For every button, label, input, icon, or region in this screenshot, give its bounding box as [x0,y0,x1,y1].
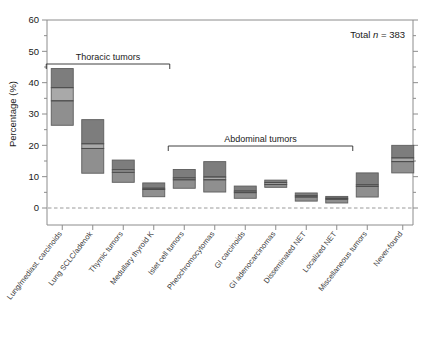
box-plot-item [356,173,378,197]
y-tick-label: 20 [28,140,39,151]
y-tick-label: 30 [28,108,39,119]
box-plot-chart: 0102030405060 Thoracic tumorsAbdominal t… [0,0,432,338]
box-plot-item [112,160,134,182]
y-tick-label: 0 [34,202,39,213]
box-plot-item [173,169,195,188]
box-plot-item [51,69,73,126]
group-bracket-label: Abdominal tumors [224,134,297,144]
y-tick-label: 50 [28,46,39,57]
y-tick-label: 40 [28,77,39,88]
group-bracket-label: Thoracic tumors [76,52,141,62]
total-n-annotation: Total n = 383 [350,29,405,40]
y-axis-title: Percentage (%) [7,81,18,147]
box-plot-item [234,186,256,198]
box-plot-item [143,183,165,197]
annotation-total-n: Total n = 383 [350,29,405,40]
box-plot-item [265,180,287,187]
y-tick-label: 10 [28,171,39,182]
box-plot-item [204,162,226,192]
y-tick-label: 60 [28,14,39,25]
y-axis-title-group: Percentage (%) [7,81,18,147]
box-plot-item [82,120,104,174]
box-plot-item [326,196,348,203]
chart-container: 0102030405060 Thoracic tumorsAbdominal t… [0,0,432,338]
box-plot-item [392,145,414,173]
box-plot-item [295,193,317,201]
